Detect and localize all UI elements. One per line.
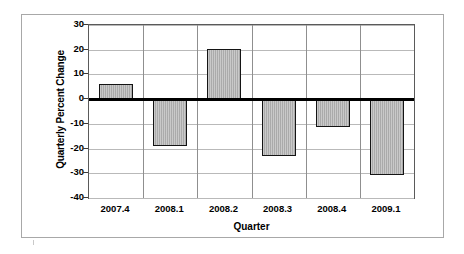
- x-tick-label: 2009.1: [359, 204, 413, 214]
- bar: [153, 99, 187, 146]
- bar: [316, 99, 350, 127]
- y-tick-label: -40: [58, 192, 84, 202]
- bar-group: [360, 25, 414, 198]
- bar-group: [89, 25, 143, 198]
- x-tick-label: 2008.3: [251, 204, 305, 214]
- y-tick-label: -20: [58, 143, 84, 153]
- gridline-horizontal: [89, 198, 414, 199]
- bar: [370, 99, 404, 174]
- bar-group: [143, 25, 197, 198]
- y-tick-mark: [83, 73, 88, 74]
- y-tick-label: -10: [58, 118, 84, 128]
- x-tick-label: 2008.2: [196, 204, 250, 214]
- y-tick-label: 30: [58, 19, 84, 29]
- y-tick-mark: [83, 123, 88, 124]
- y-axis-tick-labels: 3020100-10-20-30-40: [52, 24, 84, 199]
- chart-figure: Quarterly Percent Change 3020100-10-20-3…: [0, 0, 464, 254]
- y-tick-label: 10: [58, 68, 84, 78]
- scan-artifact-mark: [33, 240, 34, 245]
- zero-line: [89, 98, 414, 101]
- x-axis-title: Quarter: [88, 221, 415, 232]
- y-tick-label: 20: [58, 44, 84, 54]
- bar: [262, 99, 296, 156]
- y-tick-mark: [83, 172, 88, 173]
- y-tick-mark: [83, 148, 88, 149]
- y-tick-mark: [83, 24, 88, 25]
- y-tick-mark: [83, 98, 88, 99]
- y-tick-label: -30: [58, 167, 84, 177]
- x-tick-label: 2008.4: [305, 204, 359, 214]
- x-tick-label: 2007.4: [88, 204, 142, 214]
- plot-area: [88, 24, 415, 199]
- bar: [207, 49, 241, 99]
- x-tick-label: 2008.1: [142, 204, 196, 214]
- y-tick-label: 0: [58, 93, 84, 103]
- bar-group: [306, 25, 360, 198]
- bar-group: [252, 25, 306, 198]
- y-tick-mark: [83, 49, 88, 50]
- y-tick-mark: [83, 197, 88, 198]
- x-axis-tick-labels: 2007.42008.12008.22008.32008.42009.1: [88, 204, 415, 218]
- bar-group: [197, 25, 251, 198]
